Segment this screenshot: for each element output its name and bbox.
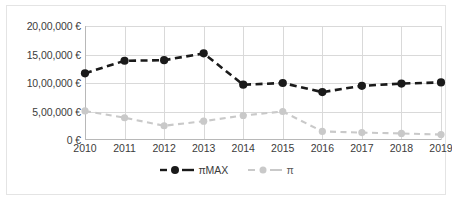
chart-legend: πMAXπ [7, 164, 447, 176]
legend-item[interactable]: π [248, 164, 293, 176]
data-point-marker [240, 112, 247, 119]
legend-item[interactable]: πMAX [160, 164, 228, 176]
x-axis-tick-labels: 2010201120122013201420152016201720182019 [85, 142, 441, 160]
series-line [85, 53, 441, 92]
plot-area [85, 26, 441, 140]
series-line [85, 111, 441, 135]
data-point-marker [120, 57, 128, 65]
data-point-marker [279, 108, 286, 115]
data-point-marker [161, 122, 168, 129]
data-point-marker [397, 79, 405, 87]
legend-marker-icon [248, 164, 282, 176]
x-axis-tick-label: 2019 [429, 142, 452, 154]
chart-container: 0 €5,00,000 €10,00,000 €15,00,000 €20,00… [0, 0, 452, 201]
data-point-marker [121, 114, 128, 121]
x-axis-tick-label: 2018 [390, 142, 413, 154]
data-point-marker [160, 56, 168, 64]
data-point-marker [200, 118, 207, 125]
data-point-marker [319, 128, 326, 135]
y-axis-tick-label: 20,00,000 € [11, 20, 81, 32]
legend-marker-icon [160, 164, 194, 176]
y-axis-tick-label: 5,00,000 € [11, 106, 81, 118]
chart-frame: 0 €5,00,000 €10,00,000 €15,00,000 €20,00… [6, 5, 446, 195]
x-axis-tick-label: 2015 [271, 142, 294, 154]
data-point-marker [200, 49, 208, 57]
legend-label: π [286, 164, 293, 176]
data-point-marker [358, 82, 366, 90]
data-point-marker [81, 107, 88, 114]
x-axis-tick-label: 2010 [73, 142, 96, 154]
data-point-marker [437, 131, 444, 138]
y-axis-tick-label: 15,00,000 € [11, 49, 81, 61]
data-point-marker [398, 130, 405, 137]
data-point-marker [279, 79, 287, 87]
x-axis-tick-label: 2014 [232, 142, 255, 154]
y-axis-tick-label: 0 € [11, 134, 81, 146]
legend-label: πMAX [198, 164, 228, 176]
x-axis-tick-label: 2013 [192, 142, 215, 154]
x-axis-tick-label: 2011 [113, 142, 136, 154]
data-point-marker [81, 69, 89, 77]
x-axis-tick-label: 2012 [152, 142, 175, 154]
data-point-marker [437, 78, 445, 86]
x-axis-tick-label: 2017 [350, 142, 373, 154]
data-point-marker [358, 129, 365, 136]
data-point-marker [239, 81, 247, 89]
data-point-marker [318, 88, 326, 96]
y-axis-tick-labels: 0 €5,00,000 €10,00,000 €15,00,000 €20,00… [7, 26, 81, 140]
y-axis-tick-label: 10,00,000 € [11, 77, 81, 89]
x-axis-tick-label: 2016 [311, 142, 334, 154]
data-series-layer [85, 26, 441, 140]
